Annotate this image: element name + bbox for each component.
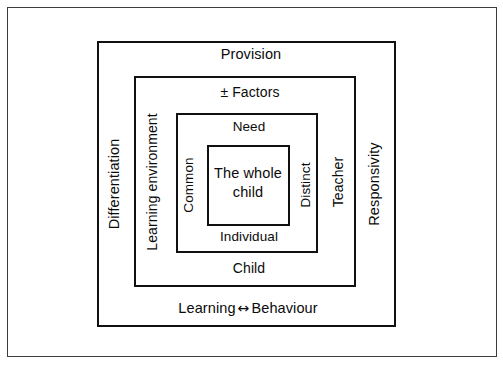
label-child: Child [233, 261, 265, 276]
label-need: Need [233, 120, 266, 134]
label-plus-minus-factors: ± Factors [220, 85, 279, 100]
label-common: Common [182, 157, 196, 212]
label-differentiation: Differentiation [107, 139, 122, 230]
label-learning-behaviour: Learning↔Behaviour [178, 301, 317, 316]
diagram-canvas: Provision Differentiation Responsivity L… [0, 0, 503, 370]
label-distinct: Distinct [299, 162, 313, 207]
label-teacher: Teacher [331, 157, 346, 208]
label-behaviour-word: Behaviour [251, 300, 317, 316]
label-learning-environment: Learning environment [145, 113, 160, 250]
label-the-whole-child: The whole child [198, 164, 298, 202]
label-learning-word: Learning [178, 300, 235, 316]
label-individual: Individual [220, 230, 278, 244]
label-provision: Provision [221, 47, 282, 62]
double-arrow-icon: ↔ [236, 301, 252, 316]
label-responsivity: Responsivity [367, 142, 382, 225]
